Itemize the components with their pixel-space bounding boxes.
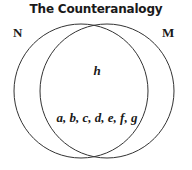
circle-n — [14, 24, 148, 158]
diagram-title: The Counteranalogy — [0, 2, 192, 16]
region-label-a-to-g: a, b, c, d, e, f, g — [1, 110, 192, 126]
set-label-n: N — [13, 25, 22, 41]
set-label-m: M — [162, 25, 174, 41]
region-label-h: h — [1, 63, 192, 79]
circle-m — [40, 24, 174, 158]
